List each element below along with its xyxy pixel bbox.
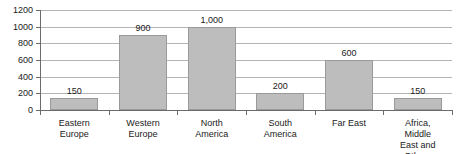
y-axis-tick-label: 0: [0, 105, 33, 115]
bar: [188, 27, 236, 110]
x-tick-mark: [452, 110, 453, 115]
y-axis-tick-label: 200: [0, 88, 33, 98]
category-label: Far East: [332, 118, 366, 129]
y-axis-tick-label: 1200: [0, 5, 33, 15]
bar: [325, 60, 373, 110]
category-label: Western Europe: [126, 118, 159, 140]
y-axis-tick-label: 800: [0, 38, 33, 48]
category-label: South America: [264, 118, 297, 140]
bar-value-label: 200: [273, 81, 288, 91]
bar-value-label: 1,000: [200, 15, 223, 25]
x-tick-mark: [177, 110, 178, 115]
category-label: Africa, Middle East and Others: [397, 118, 437, 154]
gridline: [40, 77, 452, 78]
bar-value-label: 600: [341, 48, 356, 58]
bar-value-label: 150: [67, 86, 82, 96]
category-label: North America: [195, 118, 228, 140]
gridline: [40, 60, 452, 61]
bar: [256, 93, 304, 110]
bar: [394, 98, 442, 111]
x-tick-mark: [315, 110, 316, 115]
x-tick-mark: [246, 110, 247, 115]
bar: [50, 98, 98, 111]
bar: [119, 35, 167, 110]
x-tick-mark: [109, 110, 110, 115]
x-tick-mark: [383, 110, 384, 115]
plot-area: [40, 10, 452, 110]
y-axis-line: [40, 10, 41, 111]
bar-value-label: 150: [410, 86, 425, 96]
category-label: Eastern Europe: [59, 118, 90, 140]
bar-chart: 020040060080010001200 1509001,0002006001…: [0, 0, 458, 154]
y-axis-tick-label: 600: [0, 55, 33, 65]
gridline: [40, 43, 452, 44]
gridline: [40, 10, 452, 11]
y-axis-tick-label: 400: [0, 72, 33, 82]
y-axis-tick-label: 1000: [0, 22, 33, 32]
bar-value-label: 900: [135, 23, 150, 33]
x-tick-mark: [40, 110, 41, 115]
gridline: [40, 27, 452, 28]
gridline: [40, 93, 452, 94]
